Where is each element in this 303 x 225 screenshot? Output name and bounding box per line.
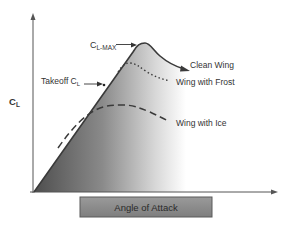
clean-wing-arrow-icon (180, 66, 190, 72)
chart-canvas: CL-MAX Takeoff CL Clean Wing Wing with F… (0, 0, 303, 225)
y-axis-label: CL (9, 96, 20, 108)
y-axis-arrow-icon (31, 13, 36, 20)
clean-wing-label: Clean Wing (190, 60, 234, 70)
clmax-label: CL-MAX (90, 40, 117, 51)
x-axis-label: Angle of Attack (114, 202, 178, 213)
takeoff-point (103, 84, 106, 87)
lift-area-shading (34, 43, 186, 192)
takeoff-cl-label: Takeoff CL (41, 76, 81, 87)
takeoff-pointer-arrow-icon (97, 82, 103, 87)
x-axis-arrow-icon (271, 190, 278, 195)
ice-wing-label: Wing with Ice (176, 118, 227, 128)
frost-wing-label: Wing with Frost (176, 77, 235, 87)
